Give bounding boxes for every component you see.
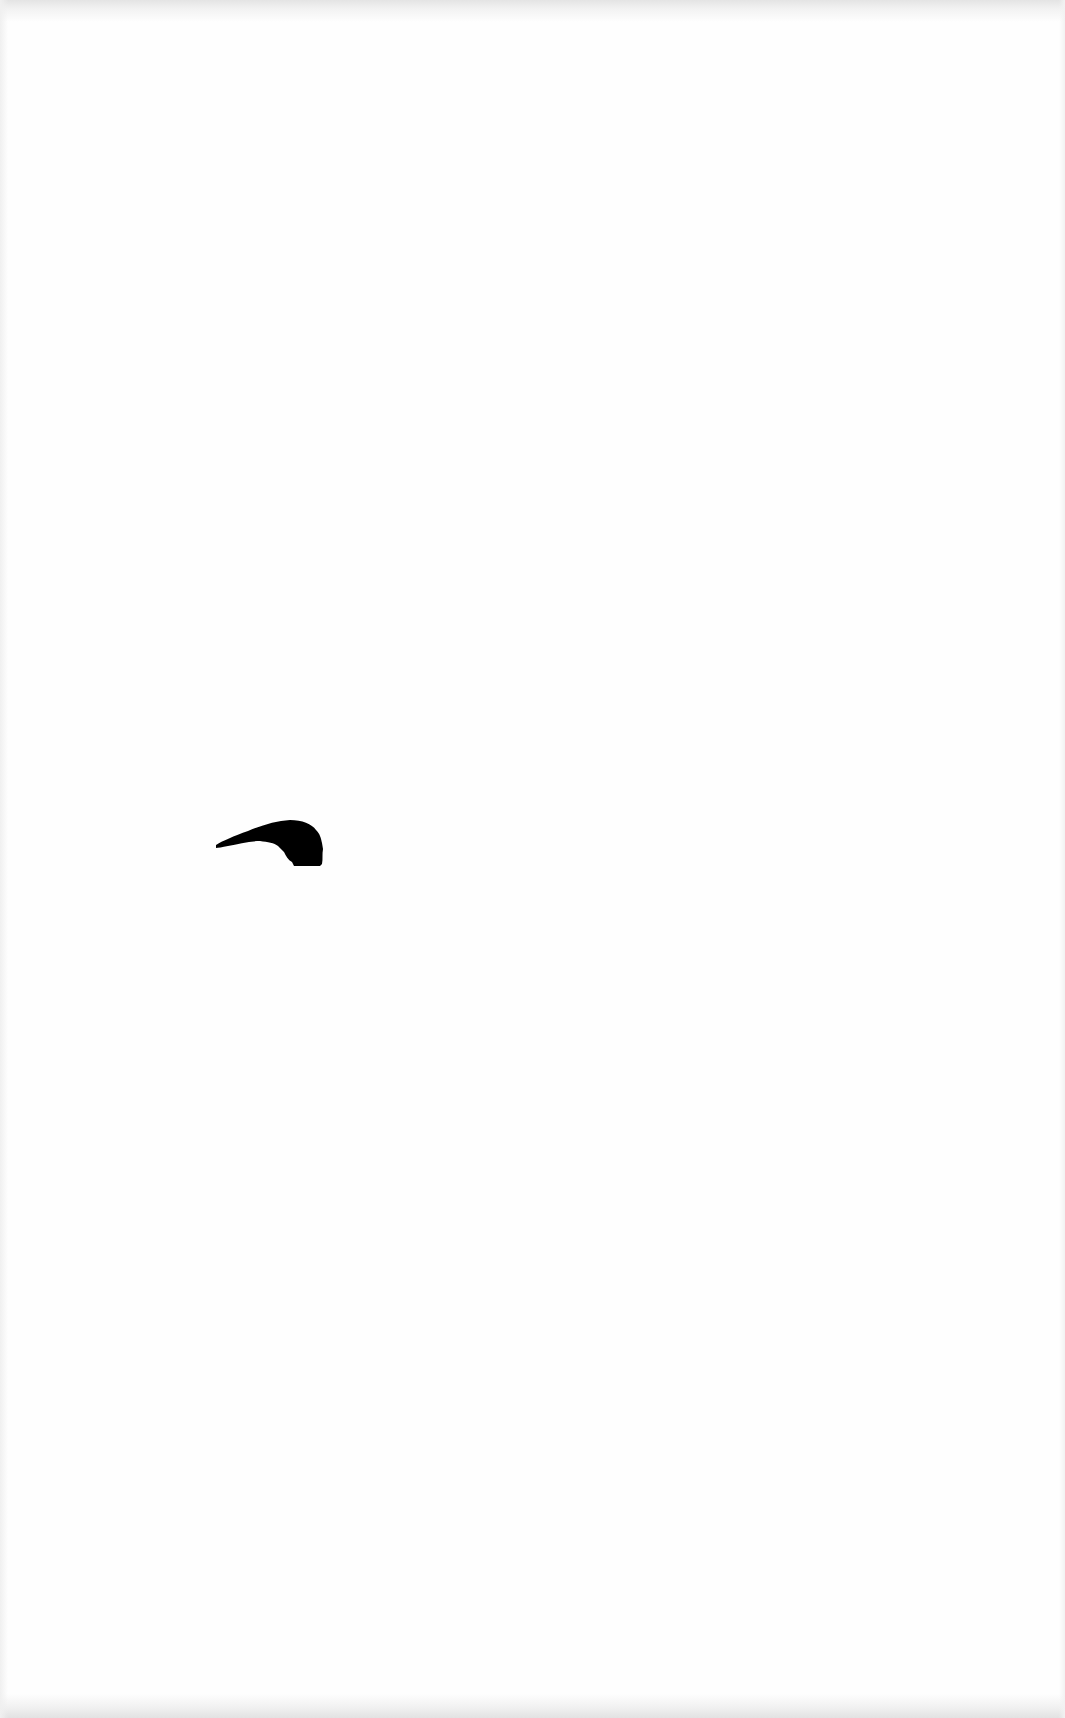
ink-hook-mark-icon (212, 816, 328, 870)
scan-noise-left-edge (0, 0, 8, 1718)
scan-noise-right-edge (1059, 0, 1065, 1718)
scan-noise-bottom-edge (0, 1694, 1065, 1718)
scan-noise-top-edge (0, 0, 1065, 22)
scanned-page (0, 0, 1065, 1718)
